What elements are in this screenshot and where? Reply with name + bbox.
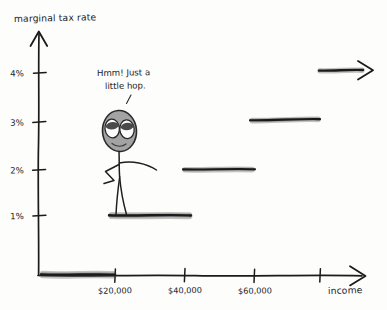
x-tick-label-60000: $60,000 <box>238 285 272 296</box>
step-series <box>41 61 373 275</box>
chart-canvas: 4% 3% 2% 1% marginal tax rate $20,000 $4… <box>0 0 387 310</box>
x-tick-60000 <box>254 269 255 282</box>
x-tick-label-20000: $20,000 <box>98 285 132 296</box>
y-tick-1 <box>33 215 46 216</box>
hand-drawn-step-chart: 4% 3% 2% 1% marginal tax rate $20,000 $4… <box>0 0 387 310</box>
y-tick-label-1: 1% <box>10 211 24 221</box>
y-tick-label-2: 2% <box>10 165 24 175</box>
x-tick-unlabeled <box>320 269 321 282</box>
speech-line-2: little hop. <box>105 80 146 91</box>
y-tick-3 <box>33 122 46 123</box>
y-axis-line <box>38 34 39 275</box>
figure-arm-right <box>119 162 156 170</box>
y-axis-title: marginal tax rate <box>14 11 97 24</box>
figure-leg-left <box>120 177 127 215</box>
figure-arm-left <box>104 165 119 184</box>
y-tick-label-4: 4% <box>10 68 24 78</box>
speech-pointer-line <box>127 95 132 104</box>
step-segment-1pct <box>109 215 191 216</box>
step-segment-2pct <box>183 169 255 170</box>
speech-annotation: Hmm! Just a little hop. <box>97 67 150 103</box>
x-axis-group: $20,000 $40,000 $60,000 income <box>38 266 366 296</box>
x-axis-title: income <box>328 284 363 296</box>
y-axis-group: 4% 3% 2% 1% marginal tax rate <box>10 11 97 275</box>
x-tick-label-40000: $40,000 <box>168 285 202 296</box>
stick-figure <box>101 109 156 214</box>
step-segment-3pct <box>250 119 320 121</box>
figure-leg-right <box>116 178 120 215</box>
speech-line-1: Hmm! Just a <box>97 67 150 78</box>
x-tick-40000 <box>184 269 185 282</box>
y-tick-4 <box>34 72 47 73</box>
step-segment-0pct <box>41 274 115 275</box>
step-segment-4pct-arrow <box>319 61 373 80</box>
y-tick-2 <box>33 169 46 170</box>
y-tick-label-3: 3% <box>10 117 24 127</box>
